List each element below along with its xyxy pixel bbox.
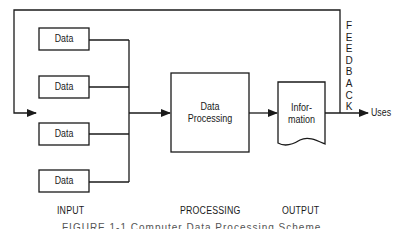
processing-label-line1: Data (175, 101, 245, 113)
stage-label-input: INPUT (57, 205, 84, 216)
data-processing-diagram: Data Data Data Data Data Processing Info… (0, 0, 403, 229)
input-box-label: Data (42, 175, 86, 186)
feedback-letter: E (344, 32, 354, 44)
feedback-letter: E (344, 43, 354, 55)
information-label-line2: mation (280, 114, 322, 126)
processing-label-line2: Processing (175, 113, 245, 125)
stage-label-output: OUTPUT (282, 205, 319, 216)
information-label: Infor- mation (280, 102, 322, 126)
feedback-letter: B (344, 66, 354, 78)
input-box-label: Data (42, 81, 86, 92)
feedback-letter: D (344, 55, 354, 67)
stage-label-processing: PROCESSING (180, 205, 240, 216)
feedback-letter: F (344, 20, 354, 32)
uses-label: Uses (371, 107, 391, 118)
feedback-letter: A (344, 78, 354, 90)
processing-box-label: Data Processing (175, 101, 245, 125)
feedback-letter: C (344, 90, 354, 102)
feedback-label: F E E D B A C K (344, 20, 354, 113)
input-box-label: Data (42, 128, 86, 139)
information-label-line1: Infor- (280, 102, 322, 114)
feedback-letter: K (344, 101, 354, 113)
input-box-label: Data (42, 33, 86, 44)
figure-caption: FIGURE 1-1 Computer Data Processing Sche… (62, 222, 321, 229)
